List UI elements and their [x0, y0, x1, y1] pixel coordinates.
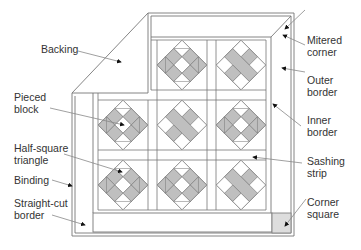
label-half-square-triangle: Half-square triangle	[14, 142, 68, 166]
label-outer-border: Outer border	[307, 74, 337, 98]
label-pieced-block: Pieced block	[14, 91, 46, 115]
backing-fold	[72, 13, 148, 93]
label-sashing-strip: Sashing strip	[307, 155, 345, 179]
corner-square	[272, 213, 291, 233]
label-binding: Binding	[14, 174, 49, 186]
label-straight-cut-border: Straight-cut border	[14, 197, 68, 221]
label-corner-square: Corner square	[307, 196, 339, 220]
label-backing: Backing	[41, 43, 78, 55]
label-mitered-corner: Mitered corner	[307, 34, 342, 58]
label-inner-border: Inner border	[307, 114, 337, 138]
